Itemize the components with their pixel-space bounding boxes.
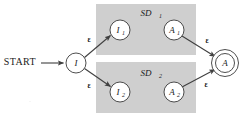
edge-I-to-I2-label: ε [87, 81, 91, 90]
node-A1[interactable]: A 1 [164, 20, 184, 40]
region-sd1-label: SD [141, 8, 153, 18]
region-sd2-label: SD [141, 68, 153, 78]
node-I1-subscript: 1 [122, 30, 125, 36]
figure-canvas: SD 1 SD 2 START ε ε ε ε [0, 0, 250, 127]
region-sd2-subscript: 2 [159, 73, 162, 79]
region-sd1-subscript: 1 [159, 13, 162, 19]
node-A2-label: A [168, 87, 175, 97]
node-A2[interactable]: A 2 [164, 82, 184, 102]
nfa-diagram: SD 1 SD 2 START ε ε ε ε [0, 0, 250, 127]
node-A-label: A [221, 58, 228, 68]
node-I[interactable]: I [66, 53, 86, 73]
node-I1[interactable]: I 1 [110, 20, 130, 40]
node-A1-subscript: 1 [177, 30, 180, 36]
node-I2[interactable]: I 2 [110, 82, 130, 102]
start-label: START [4, 56, 36, 67]
node-I2-subscript: 2 [122, 92, 125, 98]
node-A1-label: A [168, 25, 175, 35]
node-A2-subscript: 2 [177, 92, 180, 98]
edge-A1-to-A-label: ε [205, 36, 209, 45]
node-A-accepting[interactable]: A [212, 50, 239, 77]
edge-I-to-I1-label: ε [87, 35, 91, 44]
edge-A2-to-A-label: ε [204, 80, 208, 89]
